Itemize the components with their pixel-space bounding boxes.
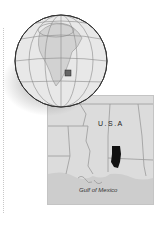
water-label: Gulf of Mexico [79, 187, 117, 193]
highlighted-region [111, 146, 121, 168]
locator-marker-icon [65, 70, 71, 76]
country-label: U.S.A [98, 120, 124, 127]
dotted-margin-line [3, 28, 4, 213]
